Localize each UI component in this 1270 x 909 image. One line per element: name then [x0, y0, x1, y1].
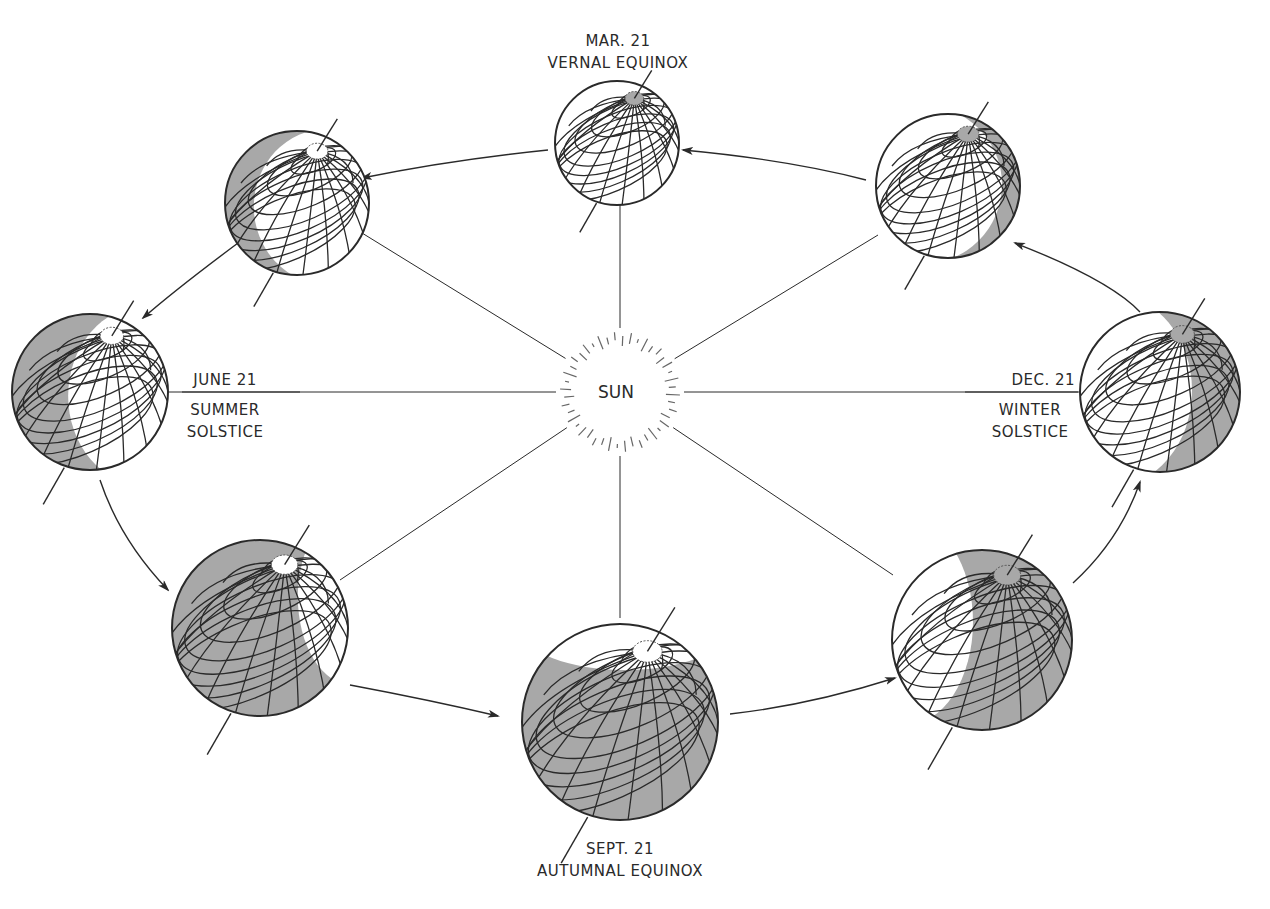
- summer-date: JUNE 21: [180, 369, 270, 391]
- axis-south: [580, 203, 597, 232]
- orbit-arrow: [362, 150, 548, 178]
- axis-south: [43, 468, 64, 505]
- summer-name-1: SUMMER: [180, 399, 270, 421]
- sun-ray-line: [675, 235, 878, 359]
- orbit-arrow: [683, 150, 866, 180]
- globe-autumnal-equinox: [498, 588, 732, 879]
- winter-date: DEC. 21: [985, 369, 1075, 391]
- vernal-equinox-label: MAR. 21 VERNAL EQUINOX: [538, 30, 698, 74]
- orbit-arrow: [1015, 243, 1140, 312]
- sun-ray-line: [340, 428, 567, 580]
- winter-solstice-label: DEC. 21 WINTER SOLSTICE: [985, 369, 1075, 443]
- axis-south: [905, 256, 924, 290]
- autumnal-date: SEPT. 21: [510, 838, 730, 860]
- axis-south: [1112, 470, 1134, 508]
- summer-solstice-label: JUNE 21 SUMMER SOLSTICE: [180, 369, 270, 443]
- summer-name-2: SOLSTICE: [180, 421, 270, 443]
- orbit-arrow: [1073, 482, 1140, 583]
- globe-late-summer: [150, 509, 407, 769]
- autumnal-name: AUTUMNAL EQUINOX: [510, 860, 730, 882]
- vernal-date: MAR. 21: [538, 30, 698, 52]
- axis-south: [928, 727, 952, 769]
- globe-late-spring: [207, 119, 401, 318]
- sun-ray-line: [673, 428, 893, 575]
- winter-name-2: SOLSTICE: [985, 421, 1075, 443]
- earth-globes: [0, 47, 1251, 879]
- globe-late-winter: [844, 102, 1031, 301]
- axis-south: [207, 713, 231, 754]
- globe-late-autumn: [838, 519, 1085, 785]
- winter-name-1: WINTER: [985, 399, 1075, 421]
- sun-label: SUN: [598, 382, 634, 402]
- orbit-arrow: [143, 243, 238, 318]
- orbit-arrow: [100, 480, 168, 590]
- vernal-name: VERNAL EQUINOX: [538, 52, 698, 74]
- orbit-arrow: [730, 678, 895, 714]
- autumnal-equinox-label: SEPT. 21 AUTUMNAL EQUINOX: [510, 838, 730, 882]
- orbit-arrow: [350, 685, 498, 716]
- sun-ray-line: [362, 233, 566, 358]
- seasons-diagram: [0, 0, 1270, 909]
- axis-south: [254, 273, 273, 307]
- globe-vernal-equinox: [540, 47, 692, 242]
